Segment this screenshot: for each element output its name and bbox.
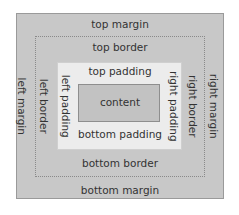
right-padding-label: right padding [168,71,179,142]
bottom-padding-label: bottom padding [78,129,162,140]
right-border-label: right border [187,75,198,138]
top-padding-label: top padding [88,66,151,77]
content-label: content [100,97,140,108]
bottom-border-label: bottom border [82,158,158,169]
left-border-label: left border [38,79,49,134]
top-border-label: top border [92,42,147,53]
left-padding-label: left padding [60,75,71,138]
top-margin-label: top margin [91,19,149,30]
bottom-margin-label: bottom margin [81,185,159,196]
left-margin-label: left margin [16,78,27,135]
right-margin-label: right margin [208,74,219,139]
